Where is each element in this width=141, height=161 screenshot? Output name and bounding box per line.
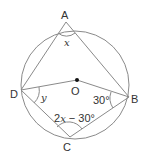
geometry-diagram: A B C D O x y 30° 2x − 30° xyxy=(0,0,141,161)
label-d: D xyxy=(10,88,18,100)
angle-label-30: 30° xyxy=(93,94,110,106)
angle-arc-d xyxy=(34,87,39,103)
angle-label-y: y xyxy=(40,92,47,103)
center-point-o xyxy=(75,78,79,82)
label-a: A xyxy=(61,9,69,21)
segment-do xyxy=(21,80,77,90)
label-c: C xyxy=(63,141,71,153)
angle-label-c: 2x − 30° xyxy=(54,112,95,124)
label-b: B xyxy=(131,93,138,105)
angle-c-suffix: − 30° xyxy=(66,112,95,124)
angle-arc-b xyxy=(110,92,113,108)
label-o: O xyxy=(71,85,80,97)
angle-label-x: x xyxy=(64,37,70,48)
